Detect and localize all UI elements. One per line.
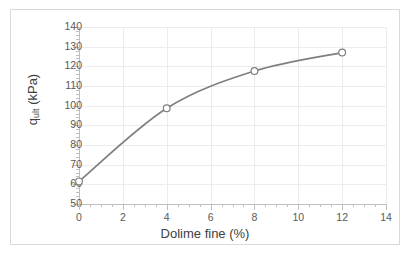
x-axis-tick xyxy=(298,204,299,210)
x-axis-minor-tick xyxy=(145,204,146,207)
x-axis-tick-label: 2 xyxy=(103,211,143,223)
x-axis-minor-tick xyxy=(222,204,223,207)
x-axis-tick xyxy=(167,204,168,210)
data-series xyxy=(79,27,386,204)
x-axis-minor-tick xyxy=(233,204,234,207)
x-axis-minor-tick xyxy=(375,204,376,207)
x-axis-minor-tick xyxy=(331,204,332,207)
x-axis-minor-tick xyxy=(134,204,135,207)
x-axis-minor-tick xyxy=(364,204,365,207)
data-point-marker xyxy=(251,68,258,75)
x-axis-minor-tick xyxy=(189,204,190,207)
y-axis-title: qult (kPa) xyxy=(25,35,40,165)
data-point-marker xyxy=(339,49,346,56)
x-axis-tick-label: 14 xyxy=(366,211,406,223)
data-point-marker xyxy=(163,105,170,112)
x-axis-tick xyxy=(254,204,255,210)
x-axis-tick xyxy=(342,204,343,210)
x-axis-minor-tick xyxy=(90,204,91,207)
series-markers xyxy=(76,49,346,185)
y-axis-title-base: q xyxy=(25,118,40,125)
x-axis-title: Dolime fine (%) xyxy=(11,226,399,241)
x-axis-minor-tick xyxy=(309,204,310,207)
x-axis-tick-label: 6 xyxy=(191,211,231,223)
x-axis-tick xyxy=(123,204,124,210)
x-axis-tick xyxy=(386,204,387,210)
y-axis-title-subscript: ult xyxy=(31,108,41,118)
chart-container: 506070809010011012013014002468101214 Dol… xyxy=(10,9,400,245)
x-axis-minor-tick xyxy=(200,204,201,207)
gridline-vertical xyxy=(386,27,387,204)
x-axis-tick-label: 0 xyxy=(59,211,99,223)
data-point-marker xyxy=(76,178,83,185)
series-line xyxy=(79,53,342,182)
x-axis-minor-tick xyxy=(276,204,277,207)
x-axis-minor-tick xyxy=(265,204,266,207)
x-axis-minor-tick xyxy=(353,204,354,207)
x-axis-minor-tick xyxy=(243,204,244,207)
x-axis-minor-tick xyxy=(287,204,288,207)
x-axis-minor-tick xyxy=(178,204,179,207)
x-axis-tick xyxy=(211,204,212,210)
x-axis-minor-tick xyxy=(156,204,157,207)
x-axis-minor-tick xyxy=(112,204,113,207)
y-axis-title-unit: (kPa) xyxy=(25,74,40,109)
x-axis-minor-tick xyxy=(101,204,102,207)
x-axis-minor-tick xyxy=(320,204,321,207)
x-axis-tick-label: 12 xyxy=(322,211,362,223)
x-axis-tick-label: 10 xyxy=(278,211,318,223)
x-axis-tick xyxy=(79,204,80,210)
x-axis-tick-label: 4 xyxy=(147,211,187,223)
x-axis-tick-label: 8 xyxy=(234,211,274,223)
